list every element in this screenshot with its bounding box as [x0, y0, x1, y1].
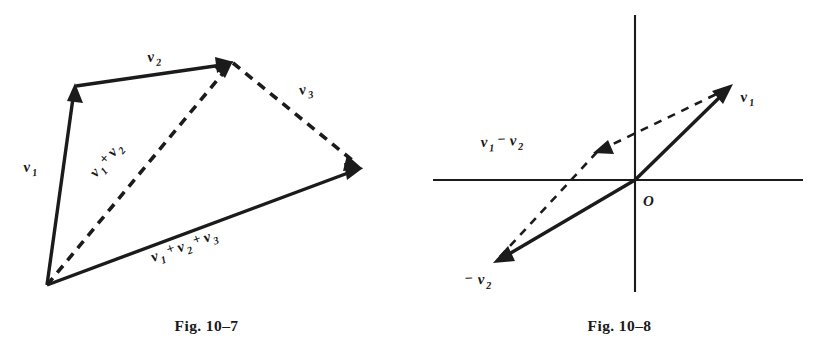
label-v1-plus-v2-plus-v3: v 1 + v 2 + v 3 [148, 225, 220, 268]
label-negative-v2: − v 2 [464, 270, 492, 292]
label-sum3-term2-sub: 2 [185, 244, 195, 257]
label-negv2-sub: 2 [485, 280, 493, 291]
vector-v3 [233, 63, 363, 171]
label-negv2-operator: − [464, 271, 473, 286]
figure-10-8: v 1 v 1 − v 2 − v 2 O Fig. 10–8 [413, 0, 826, 347]
label-sum3-term3-sub: 3 [211, 235, 221, 247]
figure-10-8-caption: Fig. 10–8 [413, 317, 826, 335]
label-v2-sub: 2 [154, 56, 162, 68]
figure-10-7-canvas: v 1 v 2 v 3 v 1 + v 2 v [0, 0, 413, 310]
label-v1: v 1 [740, 88, 755, 109]
label-diff-term2-base: v [509, 132, 517, 148]
label-v3-base: v [298, 81, 308, 98]
label-v1-base: v [23, 158, 32, 175]
label-v1-base: v [740, 88, 749, 105]
label-v2: v 2 [146, 47, 162, 69]
label-v3: v 3 [298, 80, 315, 102]
label-diff-term1-base: v [480, 134, 488, 150]
vector-v1-plus-v2-plus-v3 [47, 163, 363, 285]
label-v3-sub: 3 [306, 89, 314, 101]
label-v2-base: v [146, 48, 155, 65]
label-negv2-base: v [477, 271, 485, 287]
origin-label: O [643, 193, 654, 209]
label-v1-minus-v2: v 1 − v 2 [480, 131, 524, 154]
label-v1-plus-v2: v 1 + v 2 [85, 138, 128, 183]
vector-v1 [47, 83, 83, 285]
label-diff-term1-sub: 1 [489, 142, 495, 153]
label-v1-sub: 1 [32, 167, 38, 178]
figure-10-7: v 1 v 2 v 3 v 1 + v 2 v [0, 0, 413, 347]
label-v1-sub: 1 [749, 97, 755, 108]
vector-v1 [635, 84, 733, 180]
vector-negative-v2 [493, 180, 635, 263]
figure-page: v 1 v 2 v 3 v 1 + v 2 v [0, 0, 826, 347]
figure-10-7-caption: Fig. 10–7 [0, 317, 413, 335]
label-diff-operator: − [497, 132, 506, 147]
label-sum3-term1-sub: 1 [159, 254, 168, 266]
vector-v1-minus-v2 [593, 88, 729, 154]
label-v1: v 1 [23, 158, 38, 179]
label-diff-term2-sub: 2 [517, 141, 525, 152]
figure-10-8-canvas: v 1 v 1 − v 2 − v 2 O [413, 0, 826, 310]
construction-dashed-line [497, 152, 597, 260]
